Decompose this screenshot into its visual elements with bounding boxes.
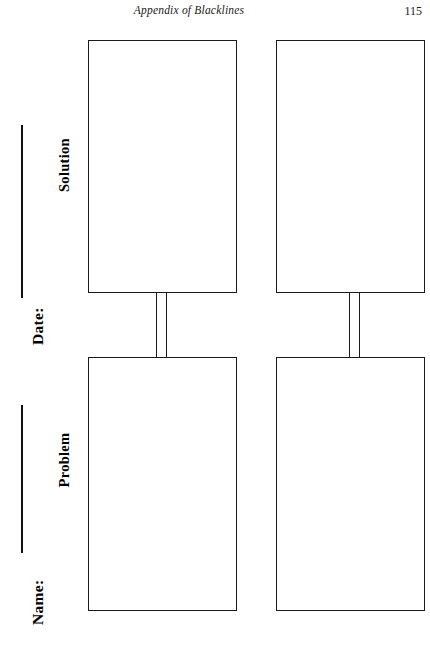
running-head: Appendix of Blacklines 115 bbox=[0, 4, 430, 20]
connector-column-2 bbox=[349, 293, 360, 357]
page-number: 115 bbox=[404, 4, 422, 19]
solution-box-column-2[interactable] bbox=[276, 40, 425, 293]
name-field: Name: bbox=[0, 400, 40, 646]
date-field-label: Date: bbox=[29, 225, 47, 345]
problem-box-column-2[interactable] bbox=[276, 357, 425, 611]
row-heading-solution: Solution bbox=[56, 105, 73, 225]
worksheet-page: Appendix of Blacklines 115 Date: Name: S… bbox=[0, 0, 430, 646]
solution-box-column-1[interactable] bbox=[88, 40, 237, 293]
date-field: Date: bbox=[0, 120, 40, 350]
date-write-line[interactable] bbox=[21, 125, 23, 298]
connector-column-1 bbox=[156, 293, 167, 357]
name-write-line[interactable] bbox=[21, 405, 23, 553]
problem-box-column-1[interactable] bbox=[88, 357, 237, 611]
running-title: Appendix of Blacklines bbox=[0, 4, 378, 16]
name-field-label: Name: bbox=[29, 505, 47, 625]
row-heading-problem: Problem bbox=[56, 400, 73, 520]
